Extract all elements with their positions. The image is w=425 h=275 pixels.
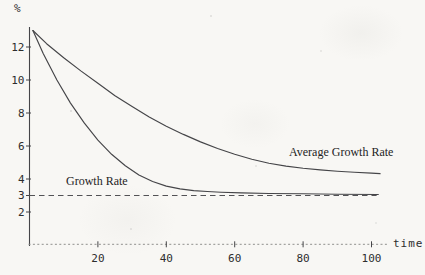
scan-noise-specks <box>70 110 72 112</box>
y-tick-label: 12 <box>11 41 24 54</box>
growth-rate-figure: 23468101220406080100 % time Growth Rate … <box>0 0 425 275</box>
y-axis-unit-label: % <box>14 3 21 15</box>
average-growth-rate-curve-label: Average Growth Rate <box>289 146 393 159</box>
x-axis-unit-label: time <box>393 238 424 250</box>
y-tick-label: 3 <box>18 189 25 202</box>
y-tick-label: 4 <box>18 173 25 186</box>
x-tick-label: 80 <box>296 252 309 265</box>
x-tick-label: 60 <box>228 252 241 265</box>
growth-rate-curve-label: Growth Rate <box>66 175 128 188</box>
x-tick-label: 20 <box>91 252 104 265</box>
x-tick-label: 40 <box>160 252 173 265</box>
y-tick-label: 6 <box>18 140 25 153</box>
y-tick-label: 2 <box>18 206 25 219</box>
y-tick-label: 10 <box>11 74 24 87</box>
x-tick-label: 100 <box>362 252 382 265</box>
growth-chart-canvas: 23468101220406080100 <box>0 0 425 275</box>
y-tick-label: 8 <box>18 107 25 120</box>
